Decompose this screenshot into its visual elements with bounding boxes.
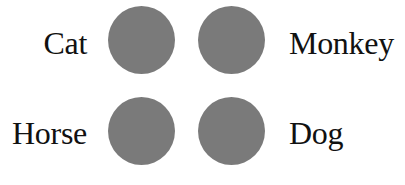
circle-dog <box>198 97 265 165</box>
circle-cat <box>108 6 175 74</box>
label-cat: Cat <box>43 27 87 59</box>
circle-monkey <box>198 6 265 74</box>
label-dog: Dog <box>289 117 343 149</box>
label-horse: Horse <box>12 117 87 149</box>
label-monkey: Monkey <box>289 27 394 59</box>
circle-horse <box>108 97 175 165</box>
